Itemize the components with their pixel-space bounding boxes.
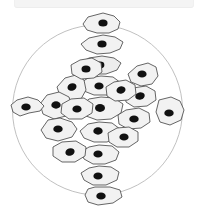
cell-nucleus [51,101,60,108]
cell-nucleus [164,109,173,116]
cell-diagram-canvas [0,0,206,218]
cell-nucleus [93,150,102,157]
cell-nucleus [119,133,128,140]
cell [83,13,120,33]
cell-nucleus [93,127,102,134]
cell [85,187,122,205]
cell [53,141,86,162]
cell-nucleus [98,20,107,27]
cell-culture-figure [0,0,206,218]
cell [156,97,184,125]
cell-nucleus [97,41,106,48]
cell-nucleus [129,115,138,122]
cell-nucleus [94,82,103,89]
cell-layer [11,13,184,205]
cell-nucleus [21,103,30,110]
cell-nucleus [93,172,102,179]
cell-nucleus [95,104,105,112]
cell-nucleus [96,192,105,199]
cell-nucleus [72,105,81,112]
cell-nucleus [82,66,91,73]
cell-nucleus [53,125,62,132]
cell-nucleus [137,70,146,77]
